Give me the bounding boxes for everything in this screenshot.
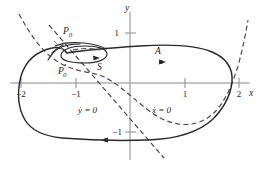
x-tick-label--1: −1 (71, 89, 81, 99)
label-p0-prime: P′0 (57, 63, 67, 78)
label-nullcline-xdot: ẋ = 0 (151, 105, 172, 115)
limit-cycle-curve (19, 45, 232, 140)
label-p0: P0 (62, 26, 73, 38)
x-tick-label-1: 1 (183, 89, 188, 99)
svg-text:P0: P0 (62, 26, 73, 38)
phase-plane-svg: −2 −1 1 2 1 −1 y x P0 P′0 S A ẏ = 0 ẋ = … (0, 0, 266, 169)
x-axis-label: x (248, 88, 254, 98)
label-a: A (154, 46, 161, 56)
y-tick-label--1: −1 (112, 127, 122, 137)
arrow-head-bottom (101, 137, 108, 142)
inner-trajectory-group (48, 43, 107, 63)
label-p0-sub: 0 (69, 31, 73, 38)
phase-portrait-figure: −2 −1 1 2 1 −1 y x P0 P′0 S A ẏ = 0 ẋ = … (0, 0, 266, 169)
nullcline-xdot-zero-curve (19, 14, 248, 125)
label-s: S (97, 62, 102, 72)
y-axis-label: y (124, 3, 130, 13)
y-tick-label-1: 1 (115, 28, 120, 38)
label-nullcline-ydot: ẏ = 0 (77, 105, 98, 115)
label-p0-prime-sub: 0 (63, 71, 67, 78)
axes-group (10, 12, 250, 160)
arrow-head-s (93, 56, 100, 61)
arrow-head-a (159, 59, 166, 64)
x-tick-label--2: −2 (16, 89, 26, 99)
limit-cycle-group (19, 45, 232, 140)
svg-text:P′0: P′0 (57, 63, 67, 78)
x-tick-label-2: 2 (237, 89, 242, 99)
